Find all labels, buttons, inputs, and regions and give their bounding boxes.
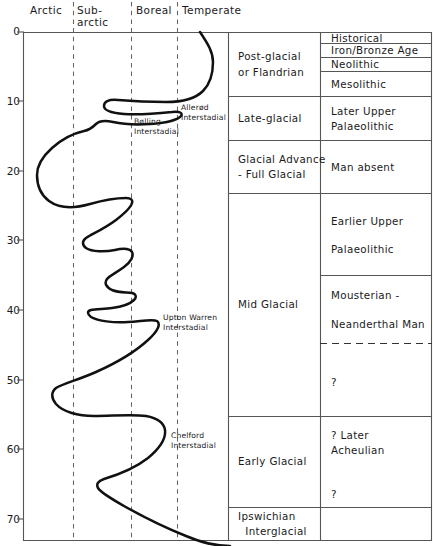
culture-cell-iron-bronze-age: Iron/Bronze Age bbox=[321, 44, 432, 58]
stage-cell-glacial-advance: Glacial Advance- Full Glacial bbox=[229, 141, 320, 193]
stage-cell-late-glacial: Late-glacial bbox=[229, 97, 320, 140]
culture-cell-man-absent: Man absent bbox=[321, 141, 432, 194]
culture-cell-mousterian: Mousterian -Neanderthal Man bbox=[321, 276, 432, 344]
stage-cell-mid-glacial: Mid Glacial bbox=[229, 194, 320, 416]
stage-cell-post-glacial: Post-glacialor Flandrian bbox=[229, 33, 320, 96]
culture-cell-query-2: ? bbox=[321, 488, 432, 502]
culture-cell-mesolithic: Mesolithic bbox=[321, 72, 432, 97]
stage-cell-ipswichian: Ipswichian Interglacial bbox=[229, 508, 320, 540]
culture-cell-neolithic: Neolithic bbox=[321, 58, 432, 72]
culture-cell-later-upper-palaeolithic: Later UpperPalaeolithic bbox=[321, 97, 432, 141]
stage-cell-early-glacial: Early Glacial bbox=[229, 417, 320, 507]
culture-cell-query-1: ? bbox=[321, 376, 432, 390]
culture-cell-later-acheulian: ? LaterAcheulian bbox=[321, 427, 432, 459]
climate-stratigraphy-figure: Arctic Sub- arctic Boreal Temperate 0 10… bbox=[0, 0, 433, 546]
culture-cell-earlier-upper-palaeolithic: Earlier UpperPalaeolithic bbox=[321, 195, 432, 276]
